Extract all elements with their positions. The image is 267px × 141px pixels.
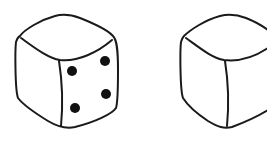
die-blank (180, 15, 267, 128)
pip-icon (101, 89, 111, 99)
pip-icon (70, 103, 80, 113)
dice-illustration (0, 0, 267, 141)
die-four-pips (15, 15, 118, 128)
die-top-edge (186, 38, 267, 60)
die-vertical-edge (225, 61, 228, 126)
die-top-edge (21, 38, 112, 60)
die-vertical-edge (59, 61, 62, 126)
die-outline (15, 15, 118, 128)
pip-icon (100, 56, 110, 66)
pip-icon (67, 66, 77, 76)
die-outline (180, 15, 267, 128)
